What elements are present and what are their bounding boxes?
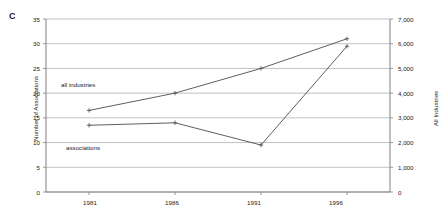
data-point-marker xyxy=(87,123,91,127)
series-line-associations xyxy=(89,46,347,145)
plot-area xyxy=(0,0,444,221)
data-point-marker xyxy=(173,121,177,125)
data-point-marker xyxy=(87,108,91,112)
series-line-all-industries xyxy=(89,39,347,111)
chart-figure: C Number of Associations All Industries … xyxy=(0,0,444,221)
data-point-marker xyxy=(173,91,177,95)
data-point-marker xyxy=(345,37,349,41)
data-point-marker xyxy=(259,66,263,70)
